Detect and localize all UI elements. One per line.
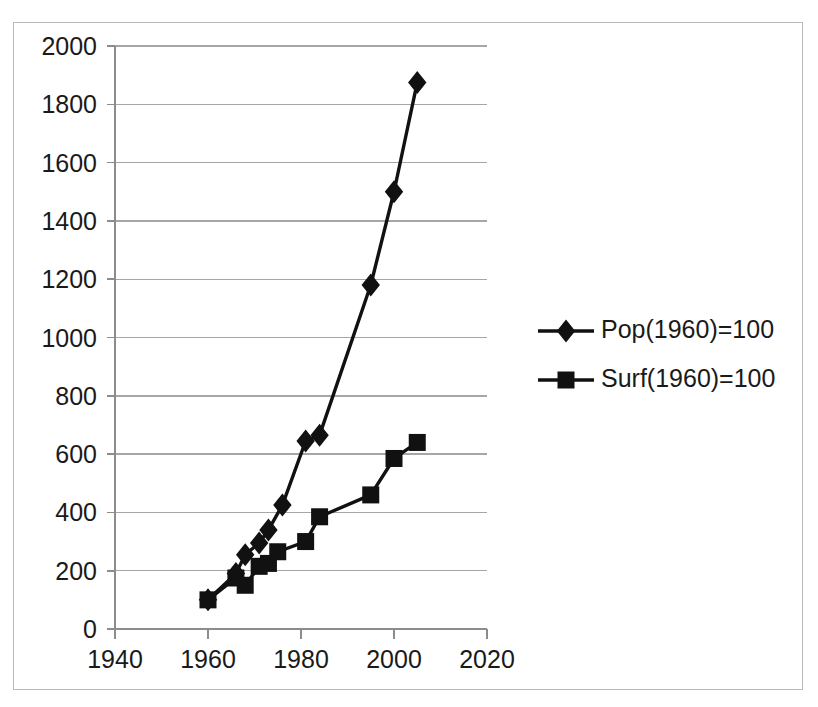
- series-2: [200, 434, 426, 608]
- y-tick-label: 1400: [41, 207, 97, 235]
- y-tick-label: 2000: [41, 32, 97, 60]
- data-point-marker: [362, 486, 379, 503]
- x-tick-label: 1980: [273, 645, 329, 673]
- y-tick-label: 800: [55, 382, 97, 410]
- data-point-marker: [362, 274, 380, 297]
- data-point-marker: [409, 434, 426, 451]
- y-tick-label: 0: [83, 615, 97, 643]
- y-tick-label: 200: [55, 557, 97, 585]
- x-tick-label: 2000: [366, 645, 422, 673]
- x-tick-label: 2020: [459, 645, 515, 673]
- data-point-marker: [385, 180, 403, 203]
- data-point-marker: [311, 508, 328, 525]
- legend-label: Surf(1960)=100: [601, 364, 775, 392]
- x-axis-tick-labels: 19401960198020002020: [87, 645, 515, 673]
- y-axis-tick-labels: 0200400600800100012001400160018002000: [41, 32, 97, 643]
- data-point-marker: [200, 591, 217, 608]
- x-axis-ticks: [115, 629, 487, 639]
- y-tick-label: 1000: [41, 324, 97, 352]
- chart-plot-area: 0200400600800100012001400160018002000 19…: [14, 23, 804, 691]
- data-point-marker: [296, 429, 314, 452]
- data-point-marker: [297, 533, 314, 550]
- y-tick-label: 1600: [41, 149, 97, 177]
- data-point-marker: [310, 424, 328, 447]
- y-axis-ticks: [107, 46, 115, 629]
- y-tick-label: 1800: [41, 90, 97, 118]
- x-tick-label: 1960: [180, 645, 236, 673]
- y-tick-label: 400: [55, 498, 97, 526]
- legend-item[interactable]: Pop(1960)=100: [538, 315, 774, 343]
- gridlines: [115, 46, 487, 571]
- data-series: [199, 71, 427, 611]
- legend-item[interactable]: Surf(1960)=100: [538, 364, 775, 392]
- legend-label: Pop(1960)=100: [601, 315, 774, 343]
- legend-marker-square-icon: [558, 372, 575, 389]
- chart-legend: Pop(1960)=100Surf(1960)=100: [538, 315, 775, 392]
- data-point-marker: [269, 543, 286, 560]
- x-tick-label: 1940: [87, 645, 143, 673]
- data-point-marker: [408, 71, 426, 94]
- data-point-marker: [386, 450, 403, 467]
- legend-marker-diamond-icon: [557, 320, 575, 343]
- data-point-marker: [237, 577, 254, 594]
- y-tick-label: 600: [55, 440, 97, 468]
- chart-figure: 0200400600800100012001400160018002000 19…: [13, 22, 803, 690]
- y-tick-label: 1200: [41, 265, 97, 293]
